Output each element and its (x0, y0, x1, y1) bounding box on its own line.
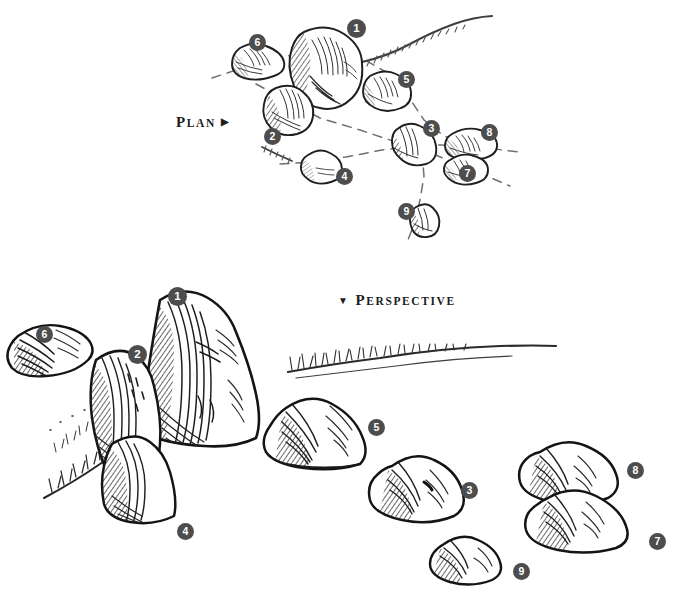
perspective-marker-7[interactable]: 7 (649, 533, 666, 550)
plan-marker-6[interactable]: 6 (249, 34, 266, 51)
plan-marker-4[interactable]: 4 (336, 168, 353, 185)
plan-marker-7[interactable]: 7 (459, 165, 476, 182)
illustration-canvas: PLAN▶ ▼PERSPECTIVE 123456789 123456789 (0, 0, 673, 616)
plan-marker-3[interactable]: 3 (423, 120, 440, 137)
perspective-marker-4[interactable]: 4 (177, 523, 194, 540)
perspective-rock-4 (102, 436, 175, 530)
plan-marker-2[interactable]: 2 (264, 128, 281, 145)
perspective-view-drawing (0, 0, 673, 616)
plan-view-label: PLAN▶ (176, 113, 230, 131)
plan-label-initial: P (176, 114, 187, 130)
perspective-path-edge (288, 344, 556, 378)
perspective-marker-5[interactable]: 5 (368, 419, 385, 436)
perspective-marker-9[interactable]: 9 (513, 563, 530, 580)
plan-marker-5[interactable]: 5 (398, 71, 415, 88)
perspective-label-rest: ERSPECTIVE (366, 295, 456, 307)
perspective-label-initial: P (356, 292, 367, 308)
perspective-view-label: ▼PERSPECTIVE (338, 291, 456, 309)
plan-marker-9[interactable]: 9 (398, 203, 415, 220)
perspective-marker-1[interactable]: 1 (168, 287, 187, 306)
plan-label-rest: LAN (187, 117, 216, 129)
perspective-rock-3 (369, 456, 466, 524)
plan-marker-8[interactable]: 8 (481, 124, 498, 141)
perspective-rock-9 (430, 537, 504, 588)
plan-marker-1[interactable]: 1 (347, 19, 366, 38)
plan-label-arrow-icon: ▶ (221, 116, 231, 127)
perspective-label-arrow-icon: ▼ (338, 295, 350, 306)
perspective-marker-3[interactable]: 3 (461, 482, 478, 499)
perspective-marker-2[interactable]: 2 (128, 345, 147, 364)
perspective-marker-6[interactable]: 6 (36, 326, 53, 343)
perspective-rock-5 (264, 399, 366, 472)
perspective-marker-8[interactable]: 8 (627, 462, 644, 479)
